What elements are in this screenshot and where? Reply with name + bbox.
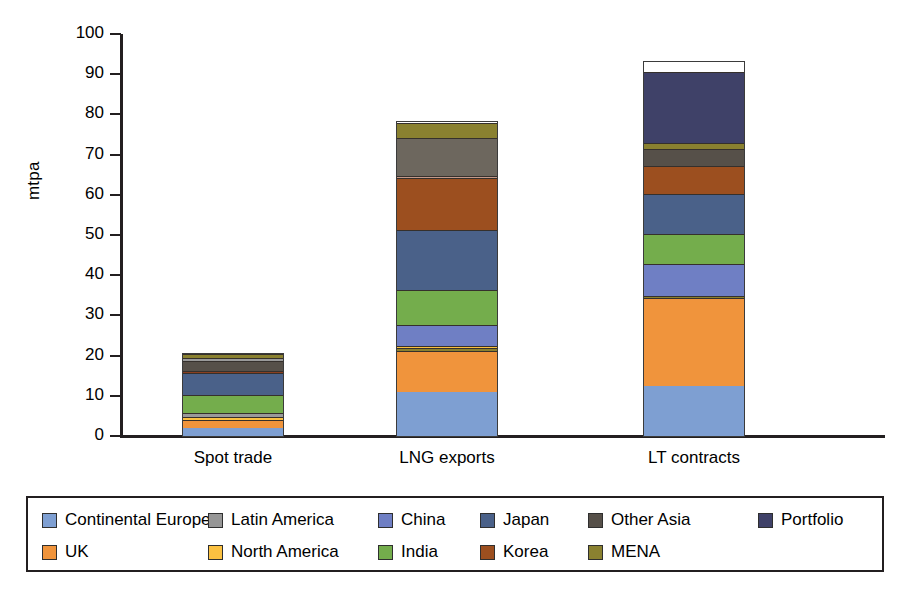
legend-swatch-icon bbox=[208, 513, 223, 528]
legend-swatch-icon bbox=[480, 513, 495, 528]
y-tick-label: 10 bbox=[48, 386, 104, 403]
category-label-lt-contracts: LT contracts bbox=[584, 448, 804, 468]
bar-segment-uk[interactable] bbox=[644, 298, 744, 386]
bar-segment-japan[interactable] bbox=[397, 230, 497, 290]
legend-label: China bbox=[401, 510, 445, 530]
y-tick-label: 80 bbox=[48, 104, 104, 121]
y-tick-label: 0 bbox=[48, 426, 104, 443]
legend-label: Japan bbox=[503, 510, 549, 530]
bar-segment-india[interactable] bbox=[644, 234, 744, 264]
legend-swatch-icon bbox=[42, 545, 57, 560]
bar-segment-korea[interactable] bbox=[644, 166, 744, 194]
bar-segment-portfolio[interactable] bbox=[644, 72, 744, 142]
bar-segment-uk[interactable] bbox=[397, 351, 497, 392]
category-label-spot-trade: Spot trade bbox=[123, 448, 343, 468]
y-tick-label: 60 bbox=[48, 185, 104, 202]
bar-segment-china[interactable] bbox=[644, 264, 744, 296]
plot-area: mtpa 0102030405060708090100 Spot tradeLN… bbox=[0, 0, 905, 470]
legend-label: North America bbox=[231, 542, 339, 562]
legend-swatch-icon bbox=[208, 545, 223, 560]
legend-item-continental-europe[interactable]: Continental Europe bbox=[42, 510, 211, 530]
bar-segment-india[interactable] bbox=[397, 290, 497, 325]
bar-segment-china[interactable] bbox=[397, 325, 497, 345]
legend-item-korea[interactable]: Korea bbox=[480, 542, 548, 562]
y-axis-label: mtpa bbox=[24, 161, 44, 200]
bar-segment-continental-europe[interactable] bbox=[644, 386, 744, 436]
bar-segment-other-asia[interactable] bbox=[183, 361, 283, 371]
legend-items-container: Continental EuropeLatin AmericaChinaJapa… bbox=[28, 498, 882, 570]
legend-item-other-asia[interactable]: Other Asia bbox=[588, 510, 690, 530]
legend-item-uk[interactable]: UK bbox=[42, 542, 89, 562]
legend-item-mena[interactable]: MENA bbox=[588, 542, 660, 562]
bar-spot-trade[interactable] bbox=[183, 354, 283, 436]
legend-label: UK bbox=[65, 542, 89, 562]
y-tick-label: 50 bbox=[48, 225, 104, 242]
bar-lng-exports[interactable] bbox=[397, 122, 497, 436]
bar-segment-korea[interactable] bbox=[397, 178, 497, 230]
y-tick-label: 70 bbox=[48, 145, 104, 162]
legend-swatch-icon bbox=[42, 513, 57, 528]
bar-segment-india[interactable] bbox=[183, 395, 283, 413]
y-tick-label: 40 bbox=[48, 265, 104, 282]
stacked-bar-chart-figure: mtpa 0102030405060708090100 Spot tradeLN… bbox=[0, 0, 905, 596]
legend-swatch-icon bbox=[758, 513, 773, 528]
legend-label: Korea bbox=[503, 542, 548, 562]
legend-label: MENA bbox=[611, 542, 660, 562]
legend-label: Other Asia bbox=[611, 510, 690, 530]
bars-container bbox=[120, 34, 885, 436]
legend-label: Latin America bbox=[231, 510, 334, 530]
bar-segment-japan[interactable] bbox=[183, 373, 283, 395]
y-tick-label: 90 bbox=[48, 64, 104, 81]
y-tick-label: 20 bbox=[48, 346, 104, 363]
y-tick-label: 30 bbox=[48, 305, 104, 322]
bar-segment-other-asia[interactable] bbox=[644, 149, 744, 166]
legend-swatch-icon bbox=[480, 545, 495, 560]
legend-item-china[interactable]: China bbox=[378, 510, 445, 530]
legend-label: Portfolio bbox=[781, 510, 843, 530]
legend-swatch-icon bbox=[378, 513, 393, 528]
legend-label: India bbox=[401, 542, 438, 562]
bar-segment-mena[interactable] bbox=[397, 123, 497, 138]
legend-item-japan[interactable]: Japan bbox=[480, 510, 549, 530]
legend-swatch-icon bbox=[378, 545, 393, 560]
bar-lt-contracts[interactable] bbox=[644, 62, 744, 436]
legend-item-north-america[interactable]: North America bbox=[208, 542, 339, 562]
legend-item-portfolio[interactable]: Portfolio bbox=[758, 510, 843, 530]
legend-item-india[interactable]: India bbox=[378, 542, 438, 562]
bar-segment-other-asia[interactable] bbox=[397, 138, 497, 176]
legend-label: Continental Europe bbox=[65, 510, 211, 530]
bar-segment-uk[interactable] bbox=[183, 420, 283, 428]
bar-segment-continental-europe[interactable] bbox=[183, 428, 283, 436]
y-tick-label: 100 bbox=[48, 24, 104, 41]
chart-legend: Continental EuropeLatin AmericaChinaJapa… bbox=[26, 496, 884, 572]
category-label-lng-exports: LNG exports bbox=[337, 448, 557, 468]
legend-swatch-icon bbox=[588, 545, 603, 560]
bar-segment-continental-europe[interactable] bbox=[397, 392, 497, 436]
bar-segment-japan[interactable] bbox=[644, 194, 744, 234]
legend-swatch-icon bbox=[588, 513, 603, 528]
legend-item-latin-america[interactable]: Latin America bbox=[208, 510, 334, 530]
